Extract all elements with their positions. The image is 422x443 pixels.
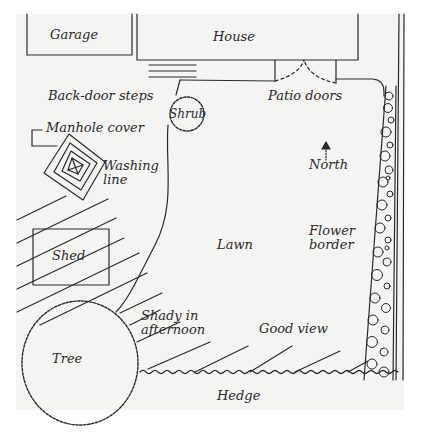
good-view-label: Good view <box>259 322 328 336</box>
lawn-label: Lawn <box>217 238 253 252</box>
washing-line-label: Washing line <box>103 159 159 187</box>
lawn-boundary <box>116 79 384 312</box>
hedge-label: Hedge <box>217 389 260 403</box>
back-door-steps-icon <box>149 65 196 77</box>
flower-border-strip <box>364 86 396 380</box>
tree-label: Tree <box>52 352 82 366</box>
manhole-cover-label: Manhole cover <box>46 121 144 135</box>
shady-in-afternoon-label: Shady in afternoon <box>141 309 205 337</box>
patio-doors-label: Patio doors <box>268 89 342 103</box>
washing-line-icon <box>44 134 105 200</box>
house-label: House <box>213 30 255 44</box>
shrub-label: Shrub <box>169 107 206 121</box>
plan-drawing <box>0 0 422 443</box>
right-fence <box>396 14 404 380</box>
back-door-steps-label: Back-door steps <box>48 89 154 103</box>
north-label: North <box>309 158 348 172</box>
shed-label: Shed <box>52 249 85 263</box>
flower-border-label: Flower border <box>309 224 355 252</box>
patio-doors-icon <box>275 60 336 83</box>
garden-plan-diagram: Garage House Back-door steps Patio doors… <box>0 0 422 443</box>
hedge-line <box>140 371 398 374</box>
garage-label: Garage <box>50 28 98 42</box>
